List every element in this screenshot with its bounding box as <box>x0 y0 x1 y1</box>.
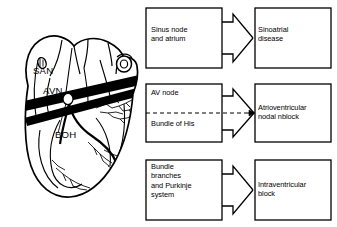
heart-svg <box>0 0 145 227</box>
text-atrioventricular-nodal-block: Atrioventricular nodal nblock <box>258 103 307 122</box>
text-av-node: AV node <box>151 88 178 97</box>
arrow-bundle-lower <box>222 190 253 214</box>
arrow-sinus-upper <box>222 14 253 38</box>
arrow-av-lower <box>222 113 254 137</box>
text-intraventricular-block: Intraventricular block <box>258 180 306 199</box>
text-bundle-branches-purkinje: Bundle branches and Purkinje system <box>151 162 192 200</box>
text-sinoatrial-disease: Sinoatrial disease <box>258 25 288 44</box>
arrow-av-upper <box>222 89 254 113</box>
label-avn: AVN <box>43 85 63 96</box>
label-san: SAN <box>33 65 53 76</box>
label-boh: BOH <box>55 129 76 140</box>
text-bundle-of-his: Bundle of His <box>151 119 194 128</box>
heart-illustration: SAN AVN BOH <box>0 0 145 227</box>
arrow-sinus-lower <box>222 38 253 62</box>
atrioventricular-node-marker <box>63 93 73 104</box>
figure-canvas: SAN AVN BOH <box>0 0 337 227</box>
arrow-bundle-upper <box>222 166 253 190</box>
flowchart: Sinus node and atrium Sinoatrial disease… <box>140 0 337 227</box>
text-sinus-node-and-atrium: Sinus node and atrium <box>151 25 187 44</box>
